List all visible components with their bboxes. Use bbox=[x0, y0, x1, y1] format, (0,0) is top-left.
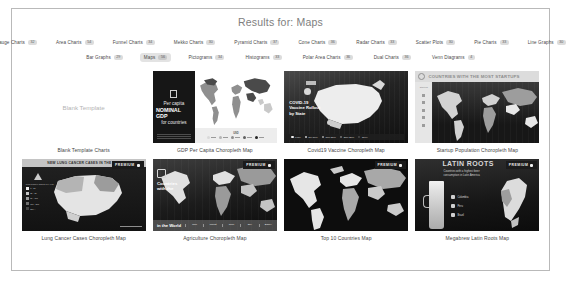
filter-chip-line-graphs[interactable]: Line Graphs30 bbox=[524, 38, 570, 48]
filter-chip-label: Radar Charts bbox=[356, 40, 385, 45]
filter-chip-radar-charts[interactable]: Radar Charts33 bbox=[352, 38, 401, 48]
megabrew-country-label: Peru bbox=[457, 205, 462, 208]
filter-chip-funnel-charts[interactable]: Funnel Charts34 bbox=[109, 38, 159, 48]
card-top10-countries[interactable]: PREMIUM bbox=[283, 159, 410, 241]
filter-chip-pie-charts[interactable]: Pie Charts33 bbox=[470, 38, 512, 48]
legend-swatch-icon bbox=[322, 136, 324, 138]
thumbnail-agriculture-choropleth[interactable]: PREMIUM bbox=[153, 159, 277, 231]
filter-chip-count: 4 bbox=[468, 55, 475, 61]
agriculture-footer: in the World RiceWheatCornSoyBarley bbox=[153, 220, 277, 231]
covid-legend-item-label: 10%-20% bbox=[325, 136, 335, 139]
thumbnail-gdp-choropleth[interactable]: Per capita NOMINAL GDP for countries bbox=[153, 71, 277, 143]
card-startup-choropleth[interactable]: COUNTRIES WITH THE MOST STARTUPS Startup… bbox=[414, 71, 541, 153]
legend-swatch-icon bbox=[231, 136, 234, 139]
filter-chip-count: 30 bbox=[206, 40, 215, 46]
premium-badge: PREMIUM bbox=[375, 161, 407, 169]
caption-agriculture-choropleth: Agriculture Choropleth Map bbox=[183, 236, 246, 241]
filter-chip-cone-charts[interactable]: Cone Charts36 bbox=[294, 38, 341, 48]
thumbnail-covid-choropleth[interactable]: COVID-19 Vaccine Rollout by State 0-5%5%… bbox=[284, 71, 408, 143]
page-header: Results for: Maps bbox=[12, 9, 549, 35]
agriculture-header: Countries with the bbox=[157, 169, 187, 191]
thumbnail-top10-countries[interactable]: PREMIUM bbox=[284, 159, 408, 231]
filter-chip-venn-diagrams[interactable]: Venn Diagrams4 bbox=[428, 53, 479, 63]
card-megabrew-latin-roots[interactable]: PREMIUM LATIN ROOTS Countries with a hig… bbox=[414, 159, 541, 241]
card-blank-template[interactable]: Blank Template Blank Template Charts bbox=[20, 71, 147, 153]
filter-chip-mekko-charts[interactable]: Mekko Charts30 bbox=[170, 38, 220, 48]
lung-body: Lung Cancer Cases per Year 0 - 2k2k - 5k… bbox=[22, 167, 146, 231]
legend-swatch-icon bbox=[219, 136, 222, 139]
country-marker-icon bbox=[451, 213, 455, 217]
filter-chip-label: Pie Charts bbox=[474, 40, 496, 45]
filter-chip-label: Histograms bbox=[245, 55, 269, 60]
filter-chip-histograms[interactable]: Histograms33 bbox=[241, 53, 285, 63]
lock-icon bbox=[530, 164, 533, 167]
lung-graphic: NEW LUNG CANCER CASES IN THE U.S. Lung C… bbox=[22, 159, 146, 231]
filter-chip-label: Venn Diagrams bbox=[432, 55, 465, 60]
gdp-line-1: Per capita bbox=[164, 101, 185, 106]
filter-chip-maps[interactable]: Maps56 bbox=[140, 53, 172, 63]
filter-chip-label: Gauge Charts bbox=[0, 40, 25, 45]
card-agriculture-choropleth[interactable]: PREMIUM bbox=[151, 159, 278, 241]
gdp-legend: USD bbox=[195, 128, 277, 143]
startup-legend-sidebar: Startups bbox=[415, 82, 432, 143]
filter-chip-count: 30 bbox=[557, 40, 566, 46]
card-lung-cancer-choropleth[interactable]: PREMIUM NEW LUNG CANCER CASES IN THE U.S… bbox=[20, 159, 147, 241]
filter-chip-count: 36 bbox=[328, 40, 337, 46]
covid-legend-item-label: 0-5% bbox=[295, 136, 301, 139]
triangle-logo-icon bbox=[34, 173, 42, 180]
filter-chip-count: 33 bbox=[500, 40, 509, 46]
filter-chip-pyramid-charts[interactable]: Pyramid Charts37 bbox=[230, 38, 283, 48]
filter-chip-label: Pictograms bbox=[188, 55, 212, 60]
caption-megabrew-latin-roots: Megabrew Latin Roots Map bbox=[446, 236, 510, 241]
caption-blank-template: Blank Template Charts bbox=[57, 148, 109, 153]
blank-template-text: Blank Template bbox=[63, 104, 105, 111]
agriculture-footer-item: Barley bbox=[259, 224, 277, 226]
filter-chip-label: Funnel Charts bbox=[113, 40, 143, 45]
gdp-line-2: NOMINAL GDP bbox=[156, 107, 192, 119]
megabrew-subtitle: Countries with a highest beer consumptio… bbox=[443, 170, 483, 177]
caption-gdp-choropleth: GDP Per Capita Choropleth Map bbox=[177, 148, 253, 153]
filter-chip-label: Cone Charts bbox=[298, 40, 325, 45]
card-gdp-choropleth[interactable]: Per capita NOMINAL GDP for countries bbox=[151, 71, 278, 153]
thumbnail-lung-cancer-choropleth[interactable]: PREMIUM NEW LUNG CANCER CASES IN THE U.S… bbox=[22, 159, 146, 231]
thumbnail-startup-choropleth[interactable]: COUNTRIES WITH THE MOST STARTUPS Startup… bbox=[415, 71, 539, 143]
world-map-graphic bbox=[197, 73, 275, 127]
filter-row-2: Bar Graphs29Maps56Pictograms34Histograms… bbox=[18, 50, 543, 65]
agriculture-footer-item: Soy bbox=[240, 224, 258, 226]
filter-chip-pictograms[interactable]: Pictograms34 bbox=[184, 53, 228, 63]
lung-legend: Lung Cancer Cases per Year 0 - 2k2k - 5k… bbox=[26, 183, 54, 212]
card-covid-choropleth[interactable]: COVID-19 Vaccine Rollout by State 0-5%5%… bbox=[283, 71, 410, 153]
filter-chip-bar-graphs[interactable]: Bar Graphs29 bbox=[82, 53, 127, 63]
filter-chip-scatter-plots[interactable]: Scatter Plots30 bbox=[412, 38, 459, 48]
startup-legend-label: Startups bbox=[420, 86, 428, 88]
thumbnail-blank-template[interactable]: Blank Template bbox=[22, 71, 146, 143]
covid-legend-item: 20%-30% bbox=[340, 136, 354, 139]
gdp-legend-item bbox=[207, 136, 216, 139]
filter-chip-polar-area-charts[interactable]: Polar Area Charts36 bbox=[299, 53, 357, 63]
gdp-legend-item-label bbox=[247, 137, 252, 138]
filter-chip-dual-charts[interactable]: Dual Charts36 bbox=[370, 53, 415, 63]
covid-legend-item: 10%-20% bbox=[322, 136, 336, 139]
filter-chip-label: Line Graphs bbox=[528, 40, 554, 45]
covid-legend-item-label: 20%-30% bbox=[344, 136, 354, 139]
caption-startup-choropleth: Startup Population Choropleth Map bbox=[437, 148, 518, 153]
filter-chip-gauge-charts[interactable]: Gauge Charts32 bbox=[0, 38, 41, 48]
legend-swatch-icon bbox=[26, 187, 29, 190]
filter-chip-area-charts[interactable]: Area Charts54 bbox=[52, 38, 98, 48]
agriculture-title: Countries with the bbox=[157, 181, 187, 191]
megabrew-country-list: ColombiaPeruBrazil bbox=[451, 195, 468, 222]
gdp-footer-lines bbox=[157, 134, 191, 140]
filter-chip-label: Area Charts bbox=[56, 40, 82, 45]
filter-chip-label: Maps bbox=[144, 55, 156, 60]
megabrew-country-item: Peru bbox=[451, 204, 468, 208]
gdp-legend-items bbox=[207, 136, 264, 139]
premium-label: PREMIUM bbox=[378, 163, 398, 167]
agriculture-footer-item: Corn bbox=[222, 224, 240, 226]
lung-legend-item-label: 20k + bbox=[30, 208, 35, 210]
covid-legend-item: 30%+ bbox=[358, 136, 368, 139]
thumbnail-megabrew-latin-roots[interactable]: PREMIUM LATIN ROOTS Countries with a hig… bbox=[415, 159, 539, 231]
page-title: Results for: Maps bbox=[238, 16, 323, 28]
lung-legend-item: 20k + bbox=[26, 207, 54, 210]
gdp-legend-title: USD bbox=[233, 132, 238, 135]
legend-swatch-icon bbox=[291, 136, 293, 138]
